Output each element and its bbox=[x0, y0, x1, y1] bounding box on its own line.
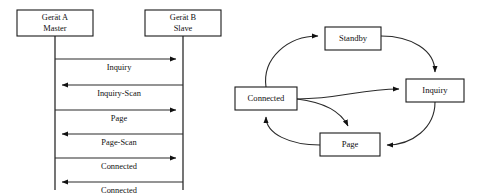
state-label-page: Page bbox=[342, 139, 359, 149]
participant-b-title: Gerät B bbox=[170, 13, 197, 22]
state-node-page[interactable]: Page bbox=[320, 133, 380, 156]
message-label: Inquiry-Scan bbox=[97, 89, 142, 98]
state-node-connected[interactable]: Connected bbox=[235, 87, 297, 110]
participant-a-title: Gerät A bbox=[42, 13, 68, 22]
state-node-inquiry[interactable]: Inquiry bbox=[406, 79, 464, 102]
state-machine-diagram: Standby Inquiry Connected Page bbox=[235, 27, 464, 156]
transition-connected-to-standby bbox=[266, 36, 318, 87]
message-inquiry-scan: Inquiry-Scan bbox=[62, 85, 183, 98]
participant-device-b: Gerät B Slave bbox=[145, 10, 221, 190]
message-label: Inquiry bbox=[107, 63, 132, 72]
sequence-diagram: Gerät A Master Gerät B Slave Inquiry Inq… bbox=[0, 0, 483, 196]
state-label-inquiry: Inquiry bbox=[422, 85, 448, 95]
transition-connected-to-page bbox=[297, 99, 348, 126]
diagram-canvas: Gerät A Master Gerät B Slave Inquiry Inq… bbox=[0, 0, 483, 196]
participant-b-role: Slave bbox=[174, 24, 193, 33]
message-connected-back: Connected bbox=[62, 182, 183, 195]
state-node-standby[interactable]: Standby bbox=[325, 27, 381, 50]
message-label: Connected bbox=[101, 186, 138, 195]
state-label-standby: Standby bbox=[339, 33, 368, 43]
transition-inquiry-to-page bbox=[387, 102, 435, 145]
message-label: Page-Scan bbox=[101, 138, 137, 147]
transition-connected-to-inquiry bbox=[297, 89, 399, 99]
participant-device-a: Gerät A Master bbox=[17, 10, 93, 190]
transition-standby-to-inquiry bbox=[381, 36, 435, 72]
message-inquiry: Inquiry bbox=[55, 59, 176, 72]
message-page: Page bbox=[55, 110, 176, 123]
message-page-scan: Page-Scan bbox=[62, 134, 183, 147]
message-label: Connected bbox=[101, 162, 138, 171]
message-label: Page bbox=[111, 114, 128, 123]
transition-page-to-connected bbox=[266, 117, 320, 145]
participant-a-role: Master bbox=[43, 24, 66, 33]
state-label-connected: Connected bbox=[248, 93, 285, 103]
message-connected-forward: Connected bbox=[55, 158, 176, 171]
